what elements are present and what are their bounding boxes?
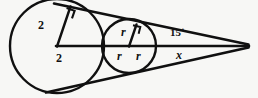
label-apex-angle: 15˙ bbox=[170, 27, 185, 38]
label-large-radius-horizontal: 2 bbox=[56, 52, 62, 64]
upper-tangent-line bbox=[54, 4, 249, 45]
small-circle-radius-segment bbox=[129, 25, 137, 47]
label-apex-distance: x bbox=[176, 49, 182, 61]
large-circle-radius-segment bbox=[57, 7, 71, 47]
lower-tangent-line bbox=[46, 48, 249, 93]
label-large-radius-vertical: 2 bbox=[38, 19, 44, 31]
label-small-radius-vertical: r bbox=[121, 26, 126, 38]
geometry-figure: 2 2 r r r 15˙ x bbox=[0, 0, 258, 98]
label-small-radius-right: r bbox=[136, 50, 141, 62]
label-small-radius-left: r bbox=[117, 50, 122, 62]
figure-canvas bbox=[0, 0, 258, 98]
